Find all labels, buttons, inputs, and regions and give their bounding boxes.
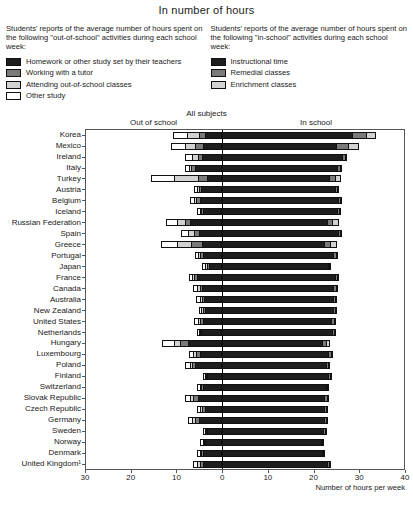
bar-in-school: [222, 373, 331, 380]
bar-in-school: [222, 197, 342, 204]
bar-segment-homework: [200, 197, 223, 204]
bar-segment-homework: [199, 230, 223, 237]
bar-segment-enrichment: [336, 285, 338, 292]
bar-segment-homework: [203, 252, 222, 259]
bar-in-school: [222, 132, 376, 139]
bar-segment-instructional: [222, 219, 326, 226]
y-axis-tick: [82, 398, 86, 399]
out-of-school-legend-row: Attending out-of-school classes: [6, 80, 203, 90]
bar-segment-instructional: [222, 241, 324, 248]
bar-out-of-school: [203, 428, 223, 435]
bar-segment-enrichment: [330, 241, 336, 248]
bar-out-of-school: [197, 406, 222, 413]
legend-out-of-school-intro: Students' reports of the average number …: [6, 24, 203, 52]
bar-out-of-school: [193, 285, 222, 292]
bar-segment-homework: [203, 318, 222, 325]
in-school-legend-swatch-icon: [211, 58, 226, 66]
out-of-school-legend-swatch-icon: [6, 81, 21, 89]
bar-segment-instructional: [222, 296, 333, 303]
bar-in-school: [222, 186, 339, 193]
chart-row: United States: [86, 316, 404, 327]
bar-segment-enrichment: [335, 175, 340, 182]
bar-in-school: [222, 263, 331, 270]
bar-segment-homework: [197, 274, 222, 281]
y-axis-label: Austria: [56, 184, 81, 195]
bar-segment-instructional: [222, 197, 337, 204]
bar-segment-enrichment: [332, 219, 338, 226]
y-axis-label: Turkey: [57, 173, 81, 184]
chart-row: Canada: [86, 283, 404, 294]
x-axis-tick-label: 30: [81, 473, 90, 482]
bar-segment-instructional: [222, 373, 328, 380]
bar-segment-enrichment: [334, 318, 336, 325]
in-school-legend-label: Remedial classes: [231, 69, 291, 77]
bar-segment-homework: [203, 461, 222, 468]
in-school-legend-row: Instructional time: [211, 57, 408, 67]
y-axis-label: Norway: [54, 436, 81, 447]
bar-segment-homework: [207, 175, 222, 182]
chart-row: Austria: [86, 184, 404, 195]
bar-in-school: [222, 329, 336, 336]
bar-segment-outclasses: [177, 219, 184, 226]
bar-segment-homework: [209, 263, 223, 270]
side-label-in-school: In school: [300, 118, 332, 127]
bar-segment-homework: [190, 219, 222, 226]
legend-in-school: Students' reports of the average number …: [211, 24, 408, 103]
bar-segment-outclasses: [177, 241, 192, 248]
in-school-legend-swatch-icon: [211, 69, 226, 77]
bar-in-school: [222, 461, 331, 468]
bar-segment-instructional: [222, 450, 321, 457]
bar-in-school: [222, 208, 341, 215]
y-axis-label: Mexico: [56, 140, 81, 151]
y-axis-label: Finland: [55, 370, 81, 381]
y-axis-tick: [82, 365, 86, 366]
bar-segment-instructional: [222, 384, 325, 391]
bar-segment-enrichment: [326, 340, 330, 347]
bar-segment-instructional: [222, 252, 333, 259]
bar-segment-enrichment: [326, 406, 328, 413]
chart-row: Denmark: [86, 448, 404, 459]
bar-segment-homework: [201, 329, 222, 336]
bar-segment-instructional: [222, 461, 326, 468]
bar-in-school: [222, 450, 325, 457]
out-of-school-legend-label: Other study: [26, 92, 65, 100]
bar-segment-instructional: [222, 154, 342, 161]
bar-segment-enrichment: [335, 296, 337, 303]
y-axis-tick: [82, 387, 86, 388]
bar-out-of-school: [196, 296, 222, 303]
bar-segment-homework: [202, 154, 222, 161]
bar-segment-instructional: [222, 230, 338, 237]
bar-segment-enrichment: [328, 362, 330, 369]
bar-segment-other: [166, 219, 178, 226]
bar-segment-enrichment: [337, 186, 339, 193]
y-axis-tick: [82, 157, 86, 158]
bar-out-of-school: [185, 395, 222, 402]
bar-segment-homework: [202, 285, 222, 292]
y-axis-tick: [82, 178, 86, 179]
bar-segment-homework: [202, 241, 222, 248]
x-axis-tick-label: 20: [126, 473, 135, 482]
bar-out-of-school: [202, 263, 222, 270]
y-axis-tick: [82, 288, 86, 289]
bar-out-of-school: [194, 186, 222, 193]
bar-out-of-school: [166, 219, 223, 226]
bar-out-of-school: [194, 318, 223, 325]
bar-segment-instructional: [222, 417, 324, 424]
y-axis-tick: [82, 321, 86, 322]
bar-in-school: [222, 252, 337, 259]
bar-segment-instructional: [222, 274, 334, 281]
y-axis-tick: [82, 233, 86, 234]
x-axis-tick-label: 10: [172, 473, 181, 482]
bar-segment-instructional: [222, 307, 333, 314]
out-of-school-legend-row: Working with a tutor: [6, 68, 203, 78]
x-axis-tick-label: 20: [309, 473, 318, 482]
bar-segment-homework: [204, 296, 222, 303]
bar-out-of-school: [200, 439, 222, 446]
bar-segment-homework: [199, 417, 223, 424]
bar-segment-homework: [205, 132, 222, 139]
bar-segment-instructional: [222, 175, 329, 182]
bar-out-of-school: [190, 197, 222, 204]
chart-row: Germany: [86, 415, 404, 426]
bar-segment-enrichment: [340, 197, 342, 204]
y-axis-label: United Kingdom¹: [21, 458, 81, 469]
